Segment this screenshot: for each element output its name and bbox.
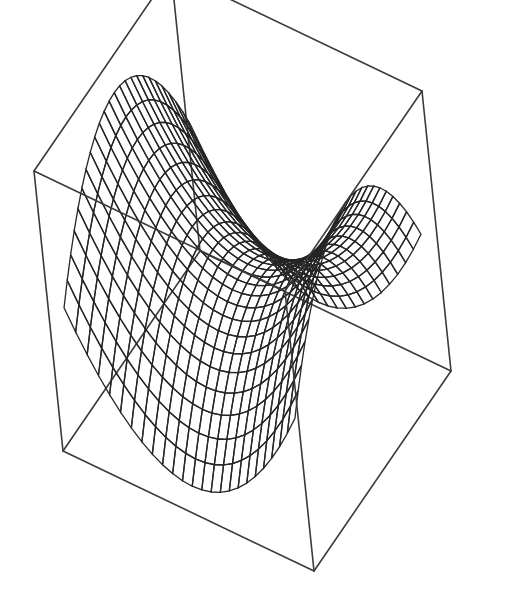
bounding-box-back-edges — [63, 0, 451, 451]
saddle-surface-mesh — [64, 76, 421, 493]
surface-plot — [0, 0, 524, 607]
